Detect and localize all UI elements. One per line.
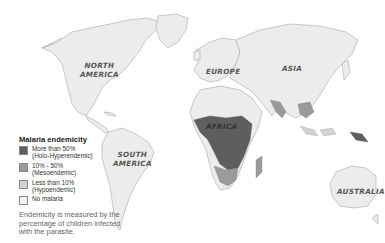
legend-holo-line1: More than 50% bbox=[32, 145, 93, 152]
legend-text-holo: More than 50% (Holo-Hyperendemic) bbox=[32, 145, 93, 160]
label-north-america-line1: NORTH bbox=[80, 61, 119, 70]
legend-text-none: No malaria bbox=[32, 195, 63, 202]
greenland-landmass bbox=[156, 14, 188, 48]
legend-title: Malaria endemicity bbox=[19, 135, 149, 144]
label-asia: ASIA bbox=[282, 64, 302, 73]
label-europe: EUROPE bbox=[206, 67, 240, 76]
endemicity-note: Endemicity is measured by the percentage… bbox=[19, 211, 129, 237]
swatch-holo bbox=[19, 146, 28, 155]
indonesia-islands bbox=[300, 126, 336, 136]
legend-item-meso: 10% - 50% (Mesoendemic) bbox=[19, 162, 149, 177]
legend-meso-line1: 10% - 50% bbox=[32, 162, 76, 169]
label-north-america: NORTH AMERICA bbox=[80, 61, 119, 79]
legend-none-line1: No malaria bbox=[32, 195, 63, 202]
japan-landmass bbox=[342, 60, 350, 80]
madagascar-landmass bbox=[256, 156, 262, 178]
legend-item-holo: More than 50% (Holo-Hyperendemic) bbox=[19, 145, 149, 160]
uk-landmass bbox=[194, 50, 200, 60]
legend-hypo-line2: (Hypoendemic) bbox=[32, 186, 75, 193]
legend-hypo-line1: Less than 10% bbox=[32, 179, 75, 186]
legend-item-hypo: Less than 10% (Hypoendemic) bbox=[19, 179, 149, 194]
swatch-hypo bbox=[19, 180, 28, 189]
new-zealand-landmass bbox=[372, 214, 378, 224]
map-legend: Malaria endemicity More than 50% (Holo-H… bbox=[19, 135, 149, 207]
label-africa: AFRICA bbox=[206, 122, 237, 131]
central-america-landmass bbox=[86, 116, 110, 134]
legend-text-meso: 10% - 50% (Mesoendemic) bbox=[32, 162, 76, 177]
swatch-meso bbox=[19, 163, 28, 172]
new-guinea-landmass bbox=[350, 132, 368, 142]
legend-text-hypo: Less than 10% (Hypoendemic) bbox=[32, 179, 75, 194]
legend-holo-line2: (Holo-Hyperendemic) bbox=[32, 152, 93, 159]
legend-item-none: No malaria bbox=[19, 195, 149, 205]
caribbean-islands bbox=[104, 112, 116, 116]
swatch-none bbox=[19, 196, 28, 205]
label-north-america-line2: AMERICA bbox=[80, 70, 119, 79]
legend-meso-line2: (Mesoendemic) bbox=[32, 169, 76, 176]
label-australia: AUSTRALIA bbox=[337, 187, 385, 196]
